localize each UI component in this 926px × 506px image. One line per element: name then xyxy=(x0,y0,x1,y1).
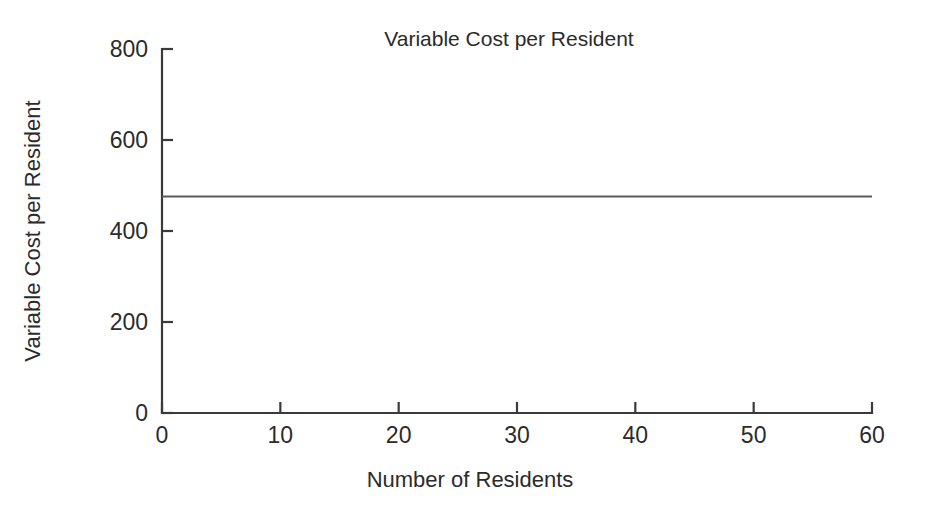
x-tick-label-0: 0 xyxy=(156,422,169,448)
chart-figure: Variable Cost per Resident Variable Cost… xyxy=(0,0,926,506)
x-tick-label-50: 50 xyxy=(741,422,767,448)
y-tick-label-400: 400 xyxy=(110,218,148,244)
chart-background xyxy=(0,0,926,506)
y-tick-label-600: 600 xyxy=(110,127,148,153)
y-tick-label-800: 800 xyxy=(110,36,148,62)
x-tick-label-60: 60 xyxy=(859,422,885,448)
x-tick-label-30: 30 xyxy=(504,422,530,448)
y-tick-label-200: 200 xyxy=(110,309,148,335)
chart-title: Variable Cost per Resident xyxy=(384,27,634,50)
variable-cost-line-chart: Variable Cost per Resident Variable Cost… xyxy=(0,0,926,506)
x-tick-label-20: 20 xyxy=(386,422,412,448)
x-axis-label: Number of Residents xyxy=(367,467,574,492)
x-tick-label-40: 40 xyxy=(623,422,649,448)
x-tick-label-10: 10 xyxy=(268,422,294,448)
y-axis-label: Variable Cost per Resident xyxy=(20,100,45,361)
y-tick-label-0: 0 xyxy=(135,400,148,426)
